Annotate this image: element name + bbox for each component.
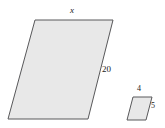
geometry-figure-canvas (0, 0, 165, 128)
large-parallelogram-right-label: 20 (102, 65, 111, 74)
small-parallelogram (127, 97, 152, 120)
large-parallelogram (8, 20, 113, 119)
small-parallelogram-right-label: 5 (151, 102, 155, 110)
small-parallelogram-top-label: 4 (137, 85, 141, 93)
large-parallelogram-top-label: x (70, 6, 74, 15)
